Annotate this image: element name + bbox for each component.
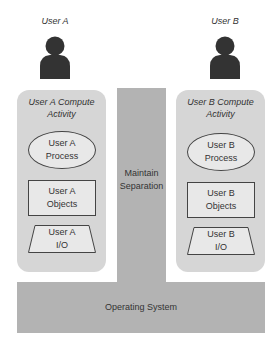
- user-b-objects: User B Objects: [187, 182, 255, 218]
- separation-label: Maintain Separation: [117, 160, 166, 200]
- user-b-panel-title: User B Compute Activity: [176, 96, 265, 120]
- user-b-process: User B Process: [187, 133, 255, 171]
- user-b-io: User B I/O: [187, 227, 255, 255]
- user-a-panel-title: User A Compute Activity: [17, 96, 106, 120]
- user-b-person-icon: [208, 35, 242, 79]
- user-b-label: User B: [195, 16, 255, 26]
- user-a-process: User A Process: [28, 131, 96, 169]
- user-a-label: User A: [25, 16, 85, 26]
- user-a-person-icon: [38, 35, 72, 79]
- user-a-io-label: User A I/O: [28, 225, 96, 253]
- operating-system-label: Operating System: [17, 282, 265, 333]
- user-b-io-label: User B I/O: [187, 227, 255, 255]
- user-a-objects: User A Objects: [28, 180, 96, 216]
- user-a-io: User A I/O: [28, 225, 96, 253]
